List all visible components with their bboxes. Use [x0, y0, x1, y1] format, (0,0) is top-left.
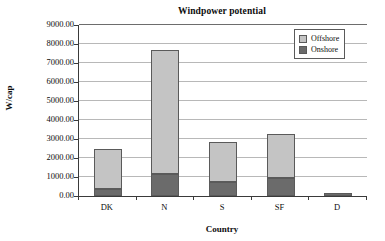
y-tick-mark	[74, 158, 78, 159]
y-tick-mark	[74, 82, 78, 83]
x-tick-mark	[78, 196, 79, 200]
bar-column-dk[interactable]	[94, 149, 122, 196]
bar-column-sf[interactable]	[267, 134, 295, 196]
y-tick-label: 6000.00	[12, 77, 74, 86]
legend-swatch-offshore-icon	[299, 35, 307, 43]
bar-segment-onshore[interactable]	[151, 174, 179, 196]
x-category-label-sf: SF	[255, 202, 305, 212]
y-tick-label: 3000.00	[12, 134, 74, 143]
chart-title: Windpower potential	[78, 6, 366, 16]
gridline	[79, 100, 367, 101]
bar-column-s[interactable]	[209, 142, 237, 196]
x-tick-mark	[251, 196, 252, 200]
x-axis-title: Country	[78, 224, 366, 234]
bar-segment-onshore[interactable]	[94, 189, 122, 196]
y-tick-mark	[74, 25, 78, 26]
bar-column-n[interactable]	[151, 50, 179, 196]
x-category-label-s: S	[197, 202, 247, 212]
bar-segment-onshore[interactable]	[209, 182, 237, 196]
bar-segment-offshore[interactable]	[209, 142, 237, 182]
y-tick-label: 1000.00	[12, 172, 74, 181]
y-tick-label: 9000.00	[12, 20, 74, 29]
x-category-label-dk: DK	[82, 202, 132, 212]
legend-item-onshore: Onshore	[299, 44, 339, 55]
chart-figure: Windpower potential W/cap Country Offsho…	[0, 0, 385, 241]
gridline	[79, 62, 367, 63]
x-tick-mark	[136, 196, 137, 200]
x-tick-mark	[193, 196, 194, 200]
legend-swatch-onshore-icon	[299, 46, 307, 54]
legend-item-offshore: Offshore	[299, 33, 339, 44]
legend-label-onshore: Onshore	[311, 46, 338, 54]
y-tick-label: 7000.00	[12, 58, 74, 67]
gridline	[79, 24, 367, 25]
y-tick-label: 5000.00	[12, 96, 74, 105]
x-tick-mark	[308, 196, 309, 200]
gridline	[79, 119, 367, 120]
bar-segment-offshore[interactable]	[267, 134, 295, 179]
legend-label-offshore: Offshore	[311, 35, 339, 43]
chart-legend: Offshore Onshore	[294, 29, 345, 59]
y-tick-label: 8000.00	[12, 39, 74, 48]
y-tick-mark	[74, 139, 78, 140]
x-tick-mark	[366, 196, 367, 200]
bar-segment-onshore[interactable]	[324, 193, 352, 196]
y-tick-label: 4000.00	[12, 115, 74, 124]
y-tick-mark	[74, 101, 78, 102]
gridline	[79, 138, 367, 139]
x-category-label-d: D	[312, 202, 362, 212]
bar-segment-offshore[interactable]	[151, 50, 179, 174]
y-tick-label: 0.00	[12, 191, 74, 200]
y-tick-mark	[74, 63, 78, 64]
bar-segment-onshore[interactable]	[267, 178, 295, 196]
bar-segment-offshore[interactable]	[94, 149, 122, 189]
y-tick-label: 2000.00	[12, 153, 74, 162]
bar-column-d[interactable]	[324, 193, 352, 196]
y-tick-mark	[74, 120, 78, 121]
gridline	[79, 81, 367, 82]
y-tick-mark	[74, 44, 78, 45]
y-tick-mark	[74, 177, 78, 178]
x-category-label-n: N	[139, 202, 189, 212]
